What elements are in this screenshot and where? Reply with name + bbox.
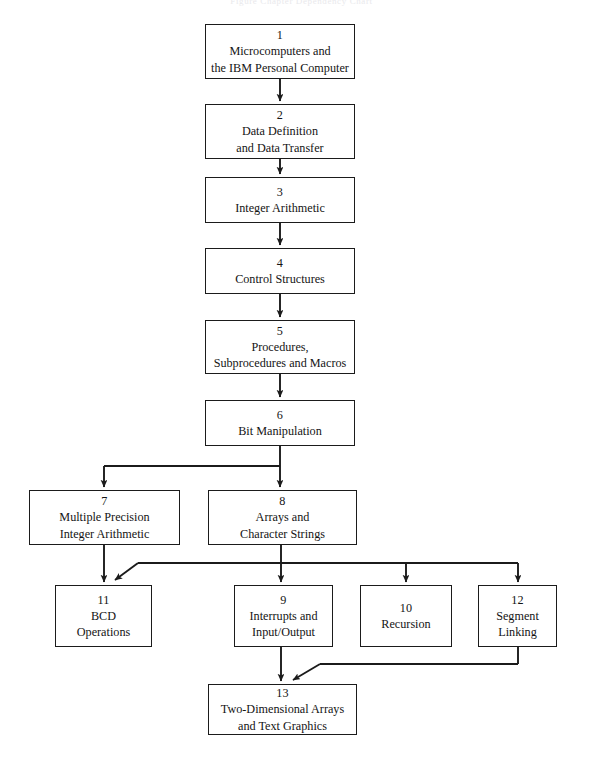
- node-7-number: 7: [101, 493, 107, 509]
- node-8[interactable]: 8 Arrays and Character Strings: [208, 490, 357, 545]
- node-2-title: Data Definition and Data Transfer: [236, 123, 323, 155]
- edge-8-11: [115, 563, 138, 580]
- node-11[interactable]: 11 BCD Operations: [55, 585, 152, 647]
- node-5-number: 5: [277, 323, 283, 339]
- node-2[interactable]: 2 Data Definition and Data Transfer: [205, 104, 355, 159]
- node-5-title: Procedures, Subprocedures and Macros: [214, 339, 347, 371]
- node-8-title: Arrays and Character Strings: [240, 509, 325, 541]
- node-12[interactable]: 12 Segment Linking: [478, 585, 557, 647]
- node-1[interactable]: 1 Microcomputers and the IBM Personal Co…: [205, 24, 355, 79]
- node-1-title: Microcomputers and the IBM Personal Comp…: [211, 43, 349, 75]
- node-13-title: Two-Dimensional Arrays and Text Graphics: [221, 701, 344, 733]
- node-9[interactable]: 9 Interrupts and Input/Output: [234, 585, 333, 647]
- node-9-title: Interrupts and Input/Output: [249, 608, 317, 640]
- node-11-title: BCD Operations: [77, 608, 130, 640]
- node-7-title: Multiple Precision Integer Arithmetic: [59, 509, 149, 541]
- node-3[interactable]: 3 Integer Arithmetic: [205, 177, 355, 223]
- node-6-number: 6: [277, 407, 283, 423]
- node-3-title: Integer Arithmetic: [235, 200, 325, 216]
- node-5[interactable]: 5 Procedures, Subprocedures and Macros: [205, 320, 355, 374]
- node-10-number: 10: [400, 600, 413, 616]
- node-1-number: 1: [277, 27, 283, 43]
- node-9-number: 9: [280, 592, 286, 608]
- node-4-number: 4: [277, 255, 283, 271]
- node-13-number: 13: [276, 685, 289, 701]
- diagram-page: Figure Chapter Dependency Chart: [0, 0, 603, 771]
- page-header-text: Figure Chapter Dependency Chart: [0, 0, 603, 6]
- node-12-title: Segment Linking: [496, 608, 539, 640]
- node-4[interactable]: 4 Control Structures: [205, 248, 355, 294]
- node-6[interactable]: 6 Bit Manipulation: [205, 400, 355, 446]
- node-11-number: 11: [97, 592, 109, 608]
- node-10-title: Recursion: [381, 616, 430, 632]
- node-7[interactable]: 7 Multiple Precision Integer Arithmetic: [29, 490, 180, 545]
- node-4-title: Control Structures: [235, 271, 325, 287]
- edge-12-13: [293, 664, 320, 680]
- node-12-number: 12: [511, 592, 524, 608]
- node-6-title: Bit Manipulation: [238, 423, 322, 439]
- node-10[interactable]: 10 Recursion: [360, 585, 452, 647]
- node-3-number: 3: [277, 184, 283, 200]
- node-13[interactable]: 13 Two-Dimensional Arrays and Text Graph…: [208, 684, 357, 735]
- node-2-number: 2: [277, 107, 283, 123]
- node-8-number: 8: [279, 493, 285, 509]
